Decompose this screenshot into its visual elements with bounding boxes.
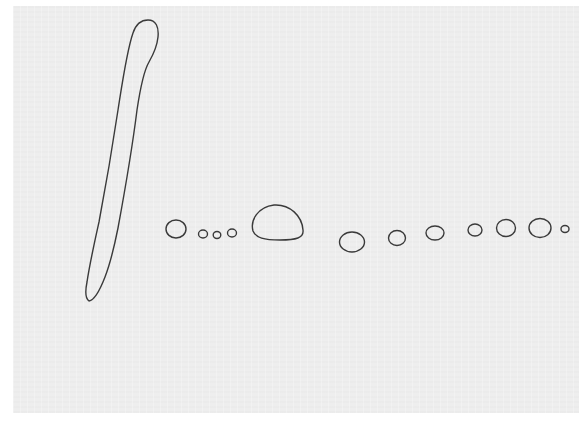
blob-6-outline <box>340 232 365 252</box>
blob-8-outline <box>426 226 444 240</box>
blob-2-outline <box>199 230 208 238</box>
line-drawing <box>0 0 586 425</box>
blob-7-outline <box>389 231 406 246</box>
blob-row <box>166 219 569 253</box>
blob-9-outline <box>468 224 482 236</box>
elongated-shape-outline <box>86 20 158 301</box>
blob-3-outline <box>213 232 221 239</box>
blob-12-outline <box>561 226 569 233</box>
blob-1-outline <box>166 220 186 238</box>
dome-shape-outline <box>252 205 303 240</box>
blob-11-outline <box>529 219 551 238</box>
blob-10-outline <box>497 220 516 237</box>
scanned-page <box>0 0 586 425</box>
blob-4-outline <box>228 229 237 237</box>
